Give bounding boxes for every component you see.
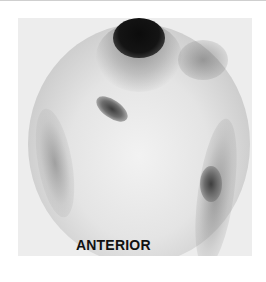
top-divider <box>0 0 266 1</box>
bladder-uptake <box>113 18 165 58</box>
focal-uptake-right <box>200 166 222 202</box>
view-label: ANTERIOR <box>76 237 151 253</box>
scan-image: ANTERIOR <box>18 18 252 256</box>
uptake-upper-right <box>178 40 228 80</box>
